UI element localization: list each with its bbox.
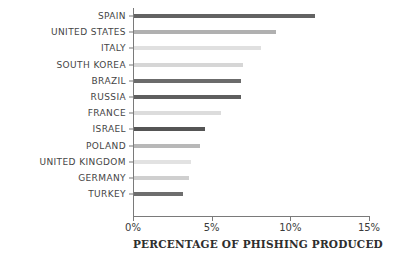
x-axis-title: PERCENTAGE OF PHISHING PRODUCED <box>133 238 369 250</box>
bar-row: SPAIN <box>133 8 369 24</box>
bar-category-label: TURKEY <box>88 189 126 199</box>
x-axis-tick-label: 5% <box>204 222 220 233</box>
bar-row: UNITED KINGDOM <box>133 154 369 170</box>
y-axis-tick <box>129 129 133 130</box>
bar <box>134 111 221 115</box>
bar-row: ITALY <box>133 40 369 56</box>
bar <box>134 176 189 180</box>
x-axis-tick <box>369 216 370 221</box>
bar-category-label: POLAND <box>86 141 126 151</box>
bar-category-label: ISRAEL <box>92 124 126 134</box>
bar <box>134 160 191 164</box>
bar-category-label: RUSSIA <box>91 92 126 102</box>
bar <box>134 63 243 67</box>
bar <box>134 14 315 18</box>
y-axis-tick <box>129 178 133 179</box>
bar-category-label: ITALY <box>101 43 126 53</box>
bar <box>134 30 276 34</box>
x-axis-tick <box>290 216 291 221</box>
bar <box>134 46 261 50</box>
y-axis-tick <box>129 113 133 114</box>
y-axis-tick <box>129 161 133 162</box>
bar-row: ISRAEL <box>133 121 369 137</box>
y-axis-tick <box>129 145 133 146</box>
bar-chart: SPAINUNITED STATESITALYSOUTH KOREABRAZIL… <box>0 0 394 257</box>
y-axis-tick <box>129 32 133 33</box>
bar-row: SOUTH KOREA <box>133 57 369 73</box>
bar-category-label: SPAIN <box>98 11 126 21</box>
bar <box>134 95 241 99</box>
bar-row: POLAND <box>133 138 369 154</box>
bar-row: GERMANY <box>133 170 369 186</box>
bar-row: FRANCE <box>133 105 369 121</box>
y-axis-tick <box>129 80 133 81</box>
y-axis-tick <box>129 97 133 98</box>
bar-category-label: UNITED STATES <box>51 27 126 37</box>
bar-category-label: UNITED KINGDOM <box>39 157 126 167</box>
bar-row: UNITED STATES <box>133 24 369 40</box>
plot-area: SPAINUNITED STATESITALYSOUTH KOREABRAZIL… <box>133 8 369 217</box>
bar <box>134 127 205 131</box>
bar-category-label: GERMANY <box>78 173 126 183</box>
bar <box>134 144 200 148</box>
bar-category-label: BRAZIL <box>92 76 126 86</box>
bar <box>134 192 183 196</box>
x-axis-tick <box>133 216 134 221</box>
x-axis-tick-label: 0% <box>125 222 141 233</box>
bar-category-label: FRANCE <box>88 108 126 118</box>
y-axis-tick <box>129 64 133 65</box>
y-axis-tick <box>129 16 133 17</box>
x-axis-tick <box>212 216 213 221</box>
bar-row: TURKEY <box>133 186 369 202</box>
x-axis-tick-label: 10% <box>279 222 301 233</box>
y-axis-tick <box>129 48 133 49</box>
bar-row: RUSSIA <box>133 89 369 105</box>
y-axis-tick <box>129 194 133 195</box>
bar-row: BRAZIL <box>133 73 369 89</box>
x-axis-tick-label: 15% <box>358 222 380 233</box>
bar <box>134 79 241 83</box>
bar-category-label: SOUTH KOREA <box>56 60 126 70</box>
